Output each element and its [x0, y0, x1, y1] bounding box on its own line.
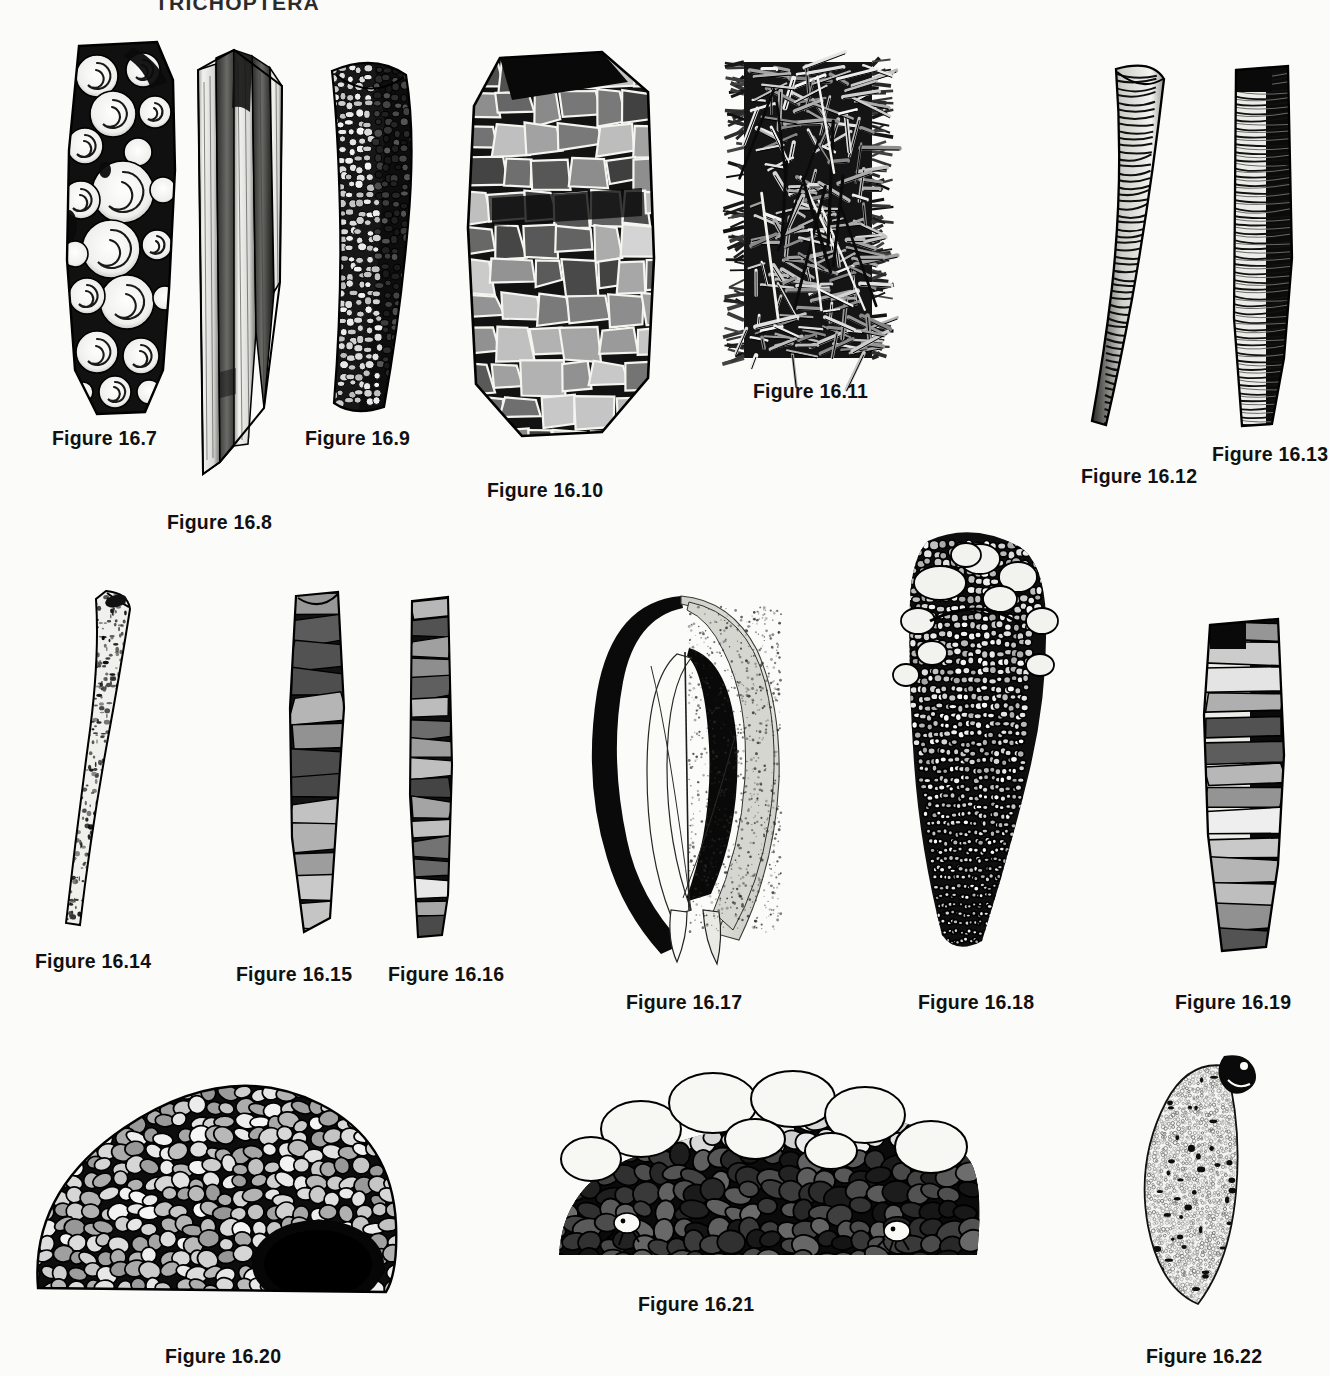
figure-16-10-caption: Figure 16.10	[487, 479, 603, 502]
figure-16-16-illustration	[398, 595, 470, 943]
figure-16-15-illustration	[276, 588, 368, 940]
figure-16-22-caption: Figure 16.22	[1146, 1345, 1262, 1368]
figure-16-19-caption: Figure 16.19	[1175, 991, 1291, 1014]
figure-16-20-illustration	[22, 1052, 404, 1310]
figure-16-7-illustration	[45, 40, 195, 420]
figure-16-10-illustration	[452, 48, 667, 448]
figure-16-11-illustration	[722, 50, 897, 370]
figure-16-8-illustration	[190, 42, 295, 482]
figure-16-20-caption: Figure 16.20	[165, 1345, 281, 1368]
figure-16-17-caption: Figure 16.17	[626, 991, 742, 1014]
figure-16-9-illustration	[312, 55, 427, 415]
figure-16-18-illustration	[870, 525, 1075, 957]
figure-16-12-caption: Figure 16.12	[1081, 465, 1197, 488]
figure-plate-page: TRICHOPTERA	[0, 0, 1330, 1376]
figure-16-17-illustration	[585, 592, 800, 970]
figure-16-18-caption: Figure 16.18	[918, 991, 1034, 1014]
figure-16-11-caption: Figure 16.11	[753, 380, 868, 403]
figure-16-21-illustration	[545, 1055, 987, 1273]
figure-16-16-caption: Figure 16.16	[388, 963, 504, 986]
figure-16-19-illustration	[1192, 615, 1304, 957]
figure-16-9-caption: Figure 16.9	[305, 427, 410, 450]
running-head: TRICHOPTERA	[155, 0, 320, 15]
figure-16-8-caption: Figure 16.8	[167, 511, 272, 534]
figure-16-13-caption: Figure 16.13	[1212, 443, 1328, 466]
figure-16-15-caption: Figure 16.15	[236, 963, 352, 986]
figure-16-14-illustration	[62, 585, 162, 933]
figure-16-14-caption: Figure 16.14	[35, 950, 151, 973]
figure-16-13-illustration	[1222, 58, 1312, 430]
figure-16-12-illustration	[1090, 55, 1180, 435]
figure-16-21-caption: Figure 16.21	[638, 1293, 754, 1316]
figure-16-22-illustration	[1132, 1050, 1264, 1312]
figure-16-7-caption: Figure 16.7	[52, 427, 157, 450]
